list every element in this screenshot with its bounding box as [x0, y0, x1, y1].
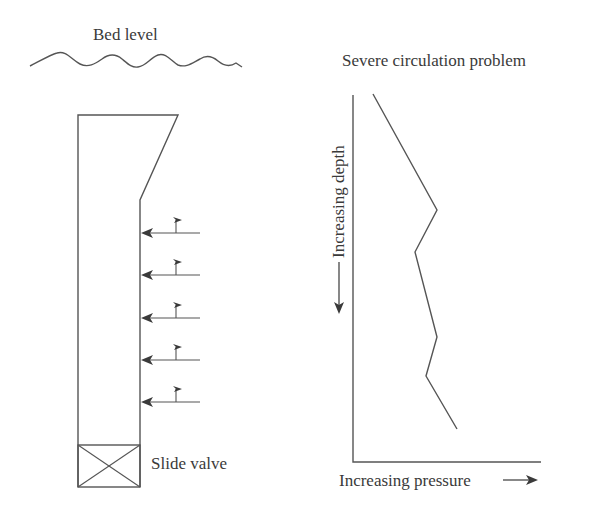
diagram-svg: [0, 0, 596, 516]
bed-level-wave: [30, 52, 242, 67]
right-arrow-icon: [503, 475, 538, 485]
inflow-arrow-1: [141, 217, 200, 238]
y-axis-label: Increasing depth: [330, 145, 347, 258]
pressure-profile-line: [373, 94, 457, 429]
chart-title: Severe circulation problem: [342, 52, 526, 69]
chart-axes: [353, 95, 541, 462]
x-axis-label: Increasing pressure: [339, 472, 471, 489]
slide-valve-label: Slide valve: [151, 455, 227, 472]
diagram-canvas: Bed level Slide valve Severe circulation…: [0, 0, 596, 516]
bed-level-label: Bed level: [93, 26, 158, 43]
inflow-arrow-3: [141, 302, 200, 323]
tube-outline: [78, 115, 178, 487]
inflow-arrow-2: [141, 259, 200, 280]
inflow-arrow-5: [141, 386, 200, 407]
inflow-arrow-4: [141, 344, 200, 365]
down-arrow-icon: [334, 262, 344, 314]
